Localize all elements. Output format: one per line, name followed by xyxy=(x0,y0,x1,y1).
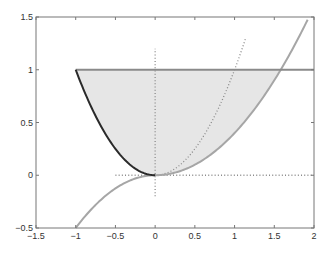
x-tick-label: −0.5 xyxy=(107,231,125,241)
x-tick-label: −1 xyxy=(71,231,81,241)
x-tick-label: 0 xyxy=(153,231,158,241)
y-tick-label: 1 xyxy=(28,65,33,75)
y-tick-label: 0.5 xyxy=(20,118,33,128)
x-tick-label: 2 xyxy=(311,231,316,241)
chart: −1.5−1−0.500.511.52−0.500.511.5 xyxy=(0,0,330,254)
x-tick-label: 1 xyxy=(232,231,237,241)
y-tick-label: −0.5 xyxy=(15,223,33,233)
plot-area xyxy=(76,20,314,228)
y-tick-label: 0 xyxy=(28,170,33,180)
shaded-region xyxy=(76,70,281,176)
y-tick-label: 1.5 xyxy=(20,12,33,22)
x-tick-label: 0.5 xyxy=(189,231,202,241)
x-tick-label: 1.5 xyxy=(268,231,281,241)
